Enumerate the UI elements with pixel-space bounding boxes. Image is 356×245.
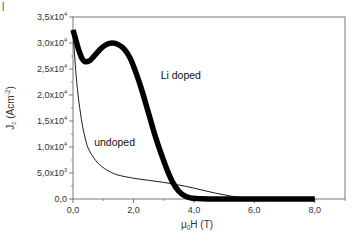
y-tick-label: 3,5x104 (37, 11, 67, 22)
x-axis-title: μ0H (T) (181, 219, 213, 231)
y-tick-label: 2,0x104 (37, 89, 67, 100)
series-layer (73, 30, 315, 199)
y-axis-title: Jc (Acm-2) (4, 86, 17, 129)
x-tick-label: 8,0 (309, 205, 322, 215)
series-undoped (73, 30, 315, 199)
y-tick-label: 1,0x104 (37, 141, 67, 152)
y-tick-label: 3,0x104 (37, 37, 67, 48)
chart: | 0,05,0x1031,0x1041,5x1042,0x1042,5x104… (0, 0, 356, 245)
y-axis: 0,05,0x1031,0x1041,5x1042,0x1042,5x1043,… (37, 11, 73, 204)
x-tick-label: 2,0 (127, 205, 140, 215)
y-tick-label: 5,0x103 (37, 167, 67, 178)
y-tick-label: 1,5x104 (37, 115, 67, 126)
annotation-li-doped: Li doped (161, 69, 201, 81)
x-tick-label: 4,0 (188, 205, 201, 215)
x-tick-label: 0,0 (67, 205, 80, 215)
series-li-doped (73, 30, 315, 199)
annotation-undoped: undoped (94, 136, 135, 148)
x-tick-label: 6,0 (248, 205, 261, 215)
panel-label: | (2, 1, 4, 11)
y-tick-label: 0,0 (54, 194, 67, 204)
y-tick-label: 2,5x104 (37, 63, 67, 74)
